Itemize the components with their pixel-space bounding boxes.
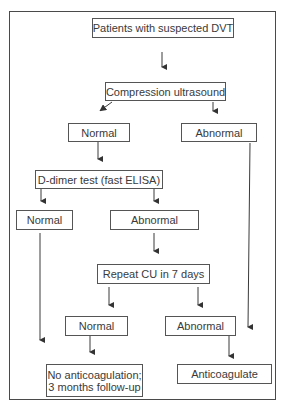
node-dd-normal: Normal	[16, 210, 73, 230]
node-label: Compression ultrasound	[106, 86, 225, 98]
node-label: Abnormal	[177, 320, 224, 332]
node-label-line1: No anticoagulation;	[47, 369, 141, 381]
node-patients-suspected-dvt: Patients with suspected DVT	[92, 18, 234, 38]
node-anticoagulate: Anticoagulate	[177, 364, 272, 384]
node-label: Normal	[27, 214, 62, 226]
node-rcu-normal: Normal	[65, 316, 128, 336]
node-label: Normal	[81, 127, 116, 139]
node-cu-normal: Normal	[68, 123, 130, 142]
node-cu-abnormal: Abnormal	[181, 123, 257, 142]
node-no-anticoagulation: No anticoagulation; 3 months follow-up	[46, 364, 143, 397]
node-label: Abnormal	[131, 214, 178, 226]
node-d-dimer-test: D-dimer test (fast ELISA)	[35, 170, 163, 189]
node-label-line2: 3 months follow-up	[48, 381, 140, 393]
node-label: Anticoagulate	[191, 368, 258, 380]
node-label: D-dimer test (fast ELISA)	[38, 174, 160, 186]
node-label: Normal	[79, 320, 114, 332]
node-label: Abnormal	[195, 127, 242, 139]
node-label: Patients with suspected DVT	[93, 22, 234, 34]
diagram-frame	[9, 11, 276, 400]
node-label: Repeat CU in 7 days	[103, 268, 205, 280]
node-repeat-cu: Repeat CU in 7 days	[97, 264, 210, 284]
node-dd-abnormal: Abnormal	[110, 210, 199, 230]
node-compression-ultrasound: Compression ultrasound	[105, 82, 226, 101]
node-rcu-abnormal: Abnormal	[165, 316, 236, 336]
